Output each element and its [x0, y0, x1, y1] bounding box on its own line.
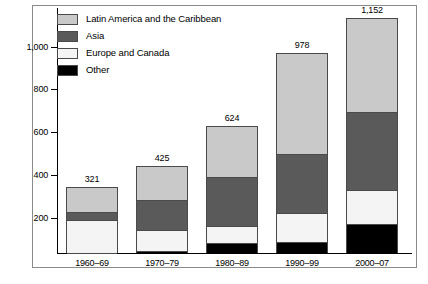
bar-segment-other[interactable]	[137, 252, 187, 254]
bar-group: 321	[66, 187, 118, 253]
bar-segment-latam[interactable]	[137, 167, 187, 201]
x-tick-label-1970-79: 1970–79	[127, 258, 197, 268]
bar-segment-asia[interactable]	[207, 178, 257, 227]
bar-total-label: 978	[268, 41, 336, 50]
y-tick-400: 400	[0, 171, 48, 180]
y-tick-200: 200	[0, 214, 48, 223]
x-tick-label-1960-69: 1960–69	[57, 258, 127, 268]
stacked-bar[interactable]	[136, 166, 188, 253]
bar-segment-latam[interactable]	[67, 188, 117, 212]
y-tick-800: 800	[0, 85, 48, 94]
bar-segment-europe[interactable]	[347, 191, 397, 226]
bar-segment-latam[interactable]	[347, 19, 397, 113]
bar-segment-asia[interactable]	[277, 155, 327, 214]
plot-area: 3214256249781,152	[57, 8, 412, 253]
bar-segment-other[interactable]	[207, 244, 257, 254]
y-tick-label: 200	[20, 214, 48, 223]
x-tick-label-2000-07: 2000–07	[337, 258, 407, 268]
bar-segment-europe[interactable]	[137, 231, 187, 252]
bar-segment-europe[interactable]	[67, 221, 117, 254]
y-tick-1000: 1,000	[0, 43, 48, 52]
x-tick-label-1980-89: 1980–89	[197, 258, 267, 268]
bar-group: 978	[276, 53, 328, 253]
stacked-bar[interactable]	[276, 53, 328, 253]
y-tick-label: 400	[20, 171, 48, 180]
stacked-bar[interactable]	[346, 18, 398, 253]
y-tick-label: 600	[20, 128, 48, 137]
bar-total-label: 1,152	[338, 6, 406, 15]
bar-segment-other[interactable]	[347, 225, 397, 254]
bar-segment-asia[interactable]	[347, 113, 397, 191]
bar-group: 425	[136, 166, 188, 253]
bar-segment-asia[interactable]	[67, 213, 117, 221]
stacked-bar[interactable]	[206, 126, 258, 253]
bar-group: 1,152	[346, 18, 398, 253]
stacked-bar-chart: 1,000 800 600 400 200 Latin America and …	[0, 0, 428, 284]
bar-total-label: 624	[198, 114, 266, 123]
bar-total-label: 321	[58, 175, 126, 184]
bar-segment-latam[interactable]	[277, 54, 327, 155]
bar-segment-europe[interactable]	[277, 214, 327, 243]
bar-total-label: 425	[128, 154, 196, 163]
y-tick-label: 1,000	[20, 43, 48, 52]
stacked-bar[interactable]	[66, 187, 118, 253]
bar-segment-asia[interactable]	[137, 201, 187, 231]
y-tick-600: 600	[0, 128, 48, 137]
x-tick-label-1990-99: 1990–99	[267, 258, 337, 268]
bar-segment-latam[interactable]	[207, 127, 257, 179]
bar-segment-europe[interactable]	[207, 227, 257, 243]
y-tick-label: 800	[20, 85, 48, 94]
bar-group: 624	[206, 126, 258, 253]
bar-segment-other[interactable]	[277, 243, 327, 254]
